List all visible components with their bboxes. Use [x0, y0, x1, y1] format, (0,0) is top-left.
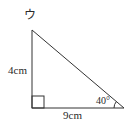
angle-arc — [114, 102, 116, 108]
angle-label: 40° — [96, 95, 110, 106]
triangle — [32, 30, 124, 108]
right-angle-marker — [32, 96, 44, 108]
base-label: 9cm — [63, 109, 82, 121]
height-label: 4cm — [8, 64, 27, 76]
